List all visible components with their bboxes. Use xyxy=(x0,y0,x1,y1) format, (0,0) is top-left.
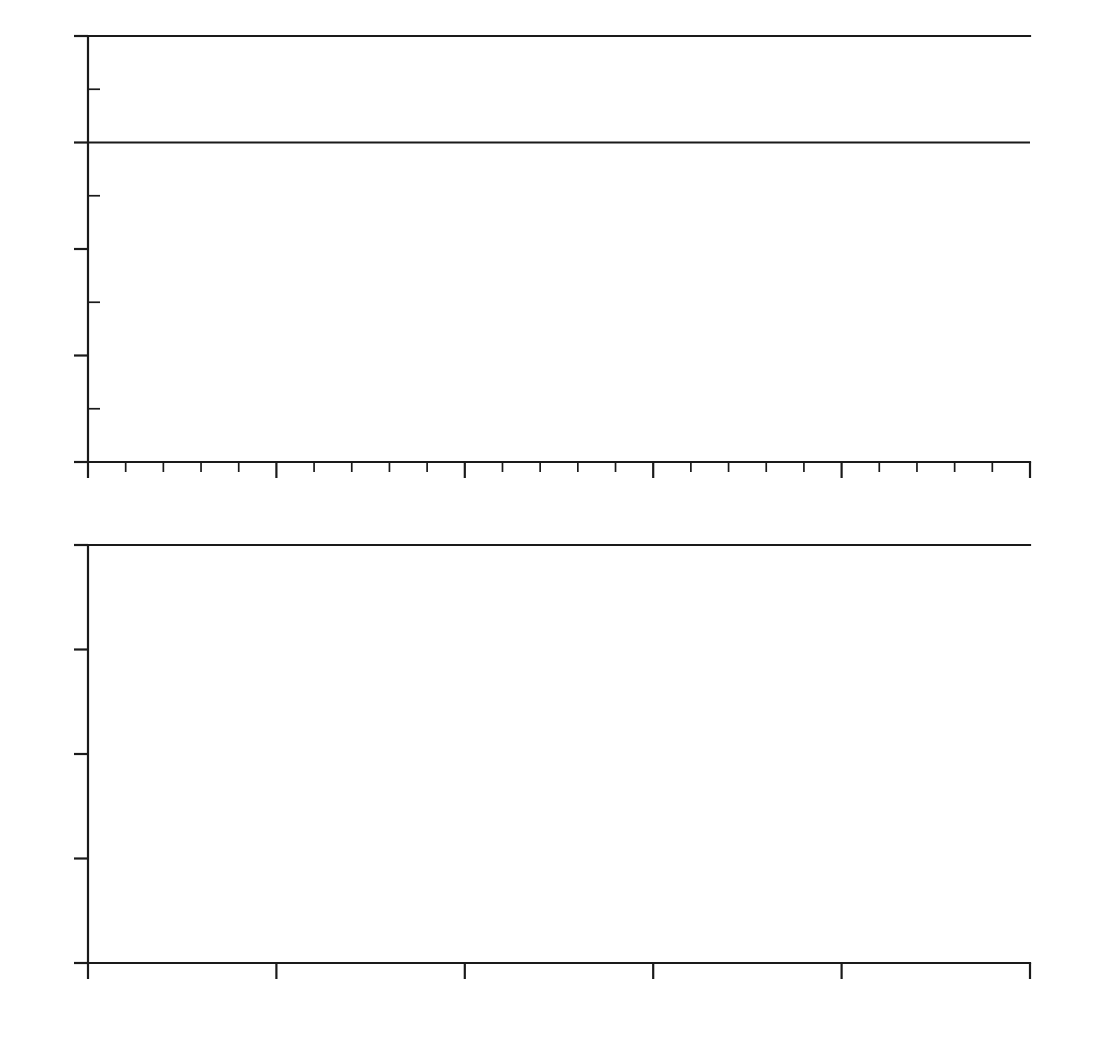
top-panel-y-major-ticks xyxy=(74,36,88,462)
figure-container xyxy=(0,0,1108,1042)
top-panel xyxy=(74,36,1030,478)
top-panel-x-minor-ticks xyxy=(126,462,993,472)
bottom-panel-y-major-ticks xyxy=(74,545,88,963)
two-panel-mass-balance-chart xyxy=(0,0,1108,1042)
top-panel-x-major-ticks xyxy=(88,462,1030,478)
bottom-panel xyxy=(74,545,1030,979)
bottom-panel-x-major-ticks xyxy=(88,963,1030,979)
top-panel-y-minor-ticks xyxy=(88,89,100,409)
